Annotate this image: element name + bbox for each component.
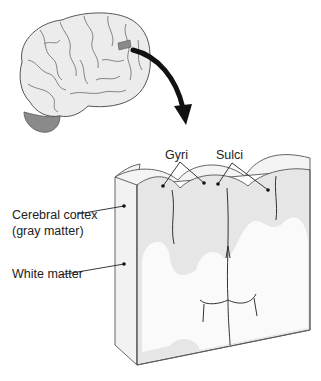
brain-cortex-diagram: Gyri Sulci Cerebral cortex (gray matter)… xyxy=(0,0,321,381)
label-cerebral-cortex: Cerebral cortex xyxy=(12,208,97,223)
label-gyri: Gyri xyxy=(165,148,188,163)
label-gray-matter: (gray matter) xyxy=(12,224,84,239)
cortex-block xyxy=(115,155,310,365)
label-white-matter: White matter xyxy=(12,267,83,282)
diagram-canvas xyxy=(0,0,321,381)
brain-illustration xyxy=(20,13,150,132)
label-sulci: Sulci xyxy=(216,148,243,163)
